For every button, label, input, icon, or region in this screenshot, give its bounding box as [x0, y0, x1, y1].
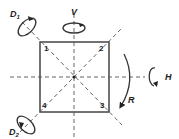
vertex-label-4: 4	[42, 101, 47, 110]
axis-label-v: V	[71, 7, 78, 17]
diagonal-axis-d1	[22, 22, 122, 125]
axis-label-d2: D2	[9, 127, 20, 138]
square-symmetry-diagram: 1 2 3 4 V D1 D2 H R	[0, 0, 179, 139]
axis-label-r: R	[128, 95, 135, 105]
axis-label-h: H	[165, 72, 172, 82]
center-point	[72, 75, 75, 78]
vertex-label-2: 2	[99, 44, 104, 53]
axis-label-d1: D1	[10, 9, 21, 20]
h-rotation-icon	[149, 68, 158, 87]
vertex-label-1: 1	[44, 44, 49, 53]
vertex-label-3: 3	[100, 101, 105, 110]
